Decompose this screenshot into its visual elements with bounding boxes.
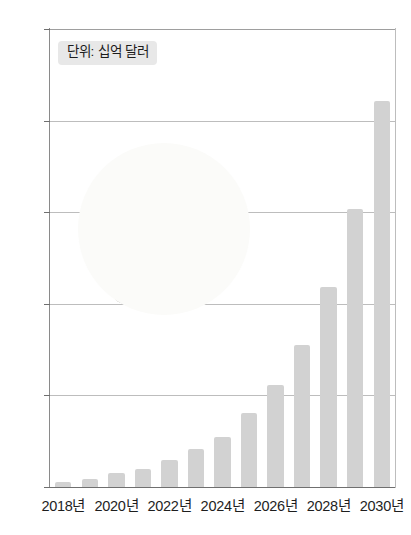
- bar-2030년: [374, 101, 390, 487]
- x-tick-label-2024년: 2024년: [201, 494, 245, 515]
- x-tick-label-2026년: 2026년: [254, 494, 298, 515]
- bar-2020년: [108, 473, 124, 487]
- bar-2021년: [135, 469, 151, 487]
- bar-2026년: [267, 385, 283, 487]
- x-tick-label-2028년: 2028년: [307, 494, 351, 515]
- bar-2019년: [82, 479, 98, 487]
- x-axis-line: [49, 487, 396, 488]
- bar-2023년: [188, 449, 204, 487]
- bar-2028년: [320, 287, 336, 487]
- plot-area: [50, 29, 395, 487]
- x-tick-label-2020년: 2020년: [94, 494, 138, 515]
- x-tick-label-2030년: 2030년: [360, 494, 404, 515]
- plot-right-border: [395, 28, 396, 488]
- bar-2025년: [241, 413, 257, 487]
- bar-chart-figure: 0816243240: [0, 0, 411, 535]
- bar-2027년: [294, 345, 310, 487]
- x-tick-label-2022년: 2022년: [148, 494, 192, 515]
- bar-2029년: [347, 209, 363, 487]
- y-tick-mark-0: [44, 487, 50, 488]
- bar-2024년: [214, 437, 230, 487]
- bar-2018년: [55, 482, 71, 487]
- x-tick-label-2018년: 2018년: [41, 494, 85, 515]
- bar-2022년: [161, 460, 177, 487]
